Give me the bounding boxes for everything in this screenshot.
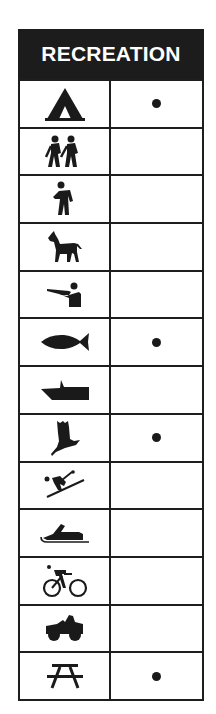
recreation-table: RECREATION bbox=[18, 29, 204, 701]
activity-cell bbox=[20, 176, 111, 222]
availability-cell bbox=[111, 129, 202, 175]
table-row-snowmobiling bbox=[20, 508, 202, 556]
horseback-riding-icon bbox=[46, 230, 84, 264]
table-row-hiking-group bbox=[20, 127, 202, 175]
availability-cell bbox=[111, 415, 202, 461]
fishing-fish-icon bbox=[40, 332, 90, 352]
activity-cell bbox=[20, 463, 111, 509]
table-row-horseback bbox=[20, 222, 202, 270]
tent-camping-icon bbox=[45, 87, 85, 121]
table-row-boating bbox=[20, 365, 202, 413]
activity-cell bbox=[20, 653, 111, 699]
activity-cell bbox=[20, 558, 111, 604]
table-row-camping bbox=[20, 79, 202, 127]
table-row-picnicking bbox=[20, 651, 202, 699]
availability-cell bbox=[111, 367, 202, 413]
availability-cell bbox=[111, 272, 202, 318]
availability-cell bbox=[111, 510, 202, 556]
activity-cell bbox=[20, 367, 111, 413]
activity-cell bbox=[20, 319, 111, 365]
table-row-bicycling bbox=[20, 556, 202, 604]
table-row-fishing bbox=[20, 317, 202, 365]
bird-watching-icon bbox=[48, 419, 82, 457]
boating-icon bbox=[40, 379, 90, 401]
activity-cell bbox=[20, 224, 111, 270]
table-row-hiking bbox=[20, 174, 202, 222]
activity-cell bbox=[20, 510, 111, 556]
skiing-icon bbox=[44, 470, 86, 500]
picnic-table-icon bbox=[46, 663, 84, 689]
off-road-vehicle-icon bbox=[45, 614, 85, 642]
activity-cell bbox=[20, 129, 111, 175]
table-row-off-road-vehicle bbox=[20, 604, 202, 652]
activity-cell bbox=[20, 415, 111, 461]
activity-cell bbox=[20, 81, 111, 127]
availability-cell bbox=[111, 176, 202, 222]
hunting-rifle-icon bbox=[47, 282, 83, 308]
table-header: RECREATION bbox=[18, 29, 204, 79]
available-dot-icon bbox=[152, 433, 161, 442]
availability-cell bbox=[111, 463, 202, 509]
table-row-hunting bbox=[20, 270, 202, 318]
availability-cell bbox=[111, 558, 202, 604]
availability-cell bbox=[111, 606, 202, 652]
hiking-pair-icon bbox=[45, 135, 85, 169]
snowmobile-icon bbox=[39, 522, 91, 544]
availability-cell bbox=[111, 653, 202, 699]
table-row-skiing bbox=[20, 461, 202, 509]
table-row-wildlife-viewing bbox=[20, 413, 202, 461]
available-dot-icon bbox=[152, 338, 161, 347]
bicycling-icon bbox=[42, 564, 88, 598]
availability-cell bbox=[111, 319, 202, 365]
availability-cell bbox=[111, 224, 202, 270]
hiker-icon bbox=[50, 181, 80, 217]
available-dot-icon bbox=[152, 99, 161, 108]
availability-cell bbox=[111, 81, 202, 127]
activity-cell bbox=[20, 272, 111, 318]
activity-cell bbox=[20, 606, 111, 652]
available-dot-icon bbox=[152, 672, 161, 681]
